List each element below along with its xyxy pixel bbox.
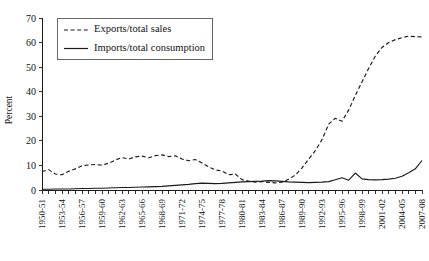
legend-label-imports: Imports/total consumption: [94, 42, 206, 53]
x-axis-tick-label: 1950-51: [37, 199, 47, 229]
y-axis-title: Percent: [4, 95, 14, 124]
x-axis-tick-label: 1959-60: [97, 199, 107, 229]
x-axis-tick-label: 1986-87: [277, 199, 287, 229]
y-axis-tick-label: 60: [26, 37, 36, 48]
x-axis-tick-label: 1995-96: [337, 199, 347, 229]
y-axis-tick-label: 30: [26, 111, 36, 122]
x-axis-tick-label: 1980-81: [237, 199, 247, 229]
x-axis-tick-label: 2001-02: [377, 199, 387, 229]
x-axis-tick-label: 1998-99: [357, 199, 367, 229]
line-chart: 010203040506070 1950-511953-541956-57195…: [0, 0, 429, 261]
x-axis-tick-label: 1971-72: [177, 199, 187, 229]
y-axis-tick-label: 70: [26, 13, 36, 24]
x-axis: 1950-511953-541956-571959-601962-631965-…: [37, 190, 427, 229]
x-axis-tick-label: 1965-66: [137, 199, 147, 229]
x-axis-tick-label: 1962-63: [117, 199, 127, 229]
y-axis: 010203040506070: [26, 13, 42, 196]
x-axis-tick-label: 1953-54: [57, 199, 67, 229]
x-axis-tick-label: 1989-90: [297, 199, 307, 229]
y-axis-tick-label: 20: [26, 135, 36, 146]
x-axis-tick-label: 2007-08: [417, 199, 427, 229]
x-axis-tick-label: 1956-57: [77, 199, 87, 229]
y-axis-tick-label: 40: [26, 86, 36, 97]
chart-legend: Exports/total salesImports/total consump…: [57, 19, 212, 60]
x-axis-tick-label: 1974-75: [197, 199, 207, 229]
x-axis-tick-label: 2004-05: [397, 199, 407, 229]
x-axis-tick-label: 1992-93: [317, 199, 327, 229]
x-axis-tick-label: 1968-69: [157, 199, 167, 229]
y-axis-tick-label: 10: [26, 160, 36, 171]
x-axis-tick-label: 1977-78: [217, 199, 227, 229]
x-axis-tick-label: 1983-84: [257, 199, 267, 229]
legend-label-exports: Exports/total sales: [94, 23, 171, 34]
chart-container: 010203040506070 1950-511953-541956-57195…: [0, 0, 429, 261]
y-axis-tick-label: 0: [31, 185, 36, 196]
y-axis-tick-label: 50: [26, 62, 36, 73]
